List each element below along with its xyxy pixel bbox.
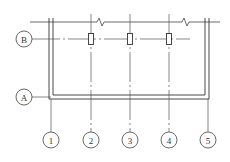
axis-label: 2 (89, 136, 94, 146)
column-axis-1: 1 (43, 99, 59, 148)
row-axis-B: B (16, 31, 190, 47)
axis-plan-drawing: BA 12345 (0, 0, 230, 162)
axis-label: A (21, 93, 28, 103)
wall-inner-line (53, 18, 205, 95)
top-boundary-line (30, 18, 220, 26)
axis-label: 4 (167, 136, 172, 146)
column-member-3 (128, 34, 133, 45)
axis-label: 1 (49, 136, 54, 146)
axis-label: 3 (128, 136, 133, 146)
row-axis-A: A (16, 89, 51, 105)
axis-label: B (21, 35, 27, 45)
axis-label: 5 (206, 136, 211, 146)
column-axis-5: 5 (200, 99, 216, 148)
column-member-4 (167, 34, 172, 45)
column-member-2 (89, 34, 94, 45)
wall-outline (49, 18, 209, 99)
wall-outer-line (49, 18, 209, 99)
